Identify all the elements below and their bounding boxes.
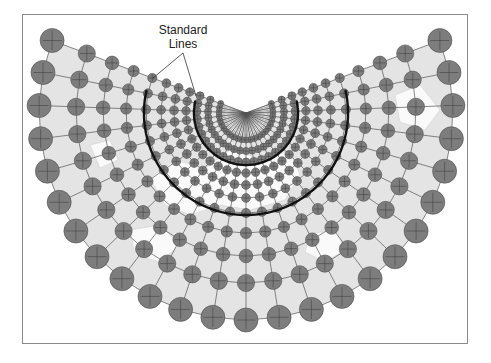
conic-projection-diagram	[0, 0, 491, 363]
label-line-2: Lines	[143, 37, 223, 51]
label-line-1: Standard	[143, 23, 223, 37]
standard-lines-label: Standard Lines	[143, 23, 223, 51]
